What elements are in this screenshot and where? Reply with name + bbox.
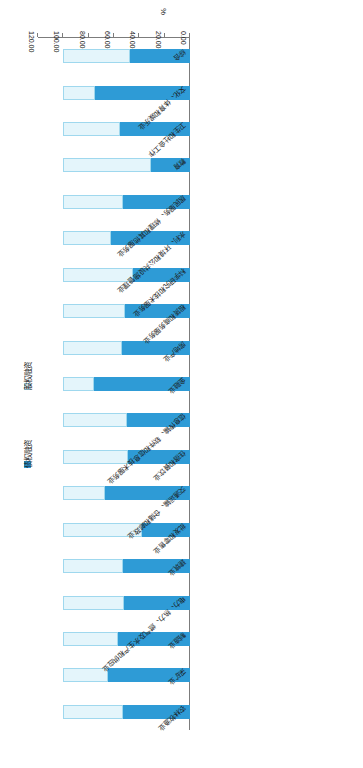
- value-axis-tick: [138, 33, 139, 37]
- stacked-bar-chart: 0.0020.0040.0060.0080.00100.00120.00 % 农…: [0, 0, 363, 768]
- legend-label: 股权融资: [22, 362, 33, 390]
- bar-segment-equity: [63, 195, 123, 209]
- bar-segment-equity: [63, 559, 123, 573]
- bar-segment-equity: [63, 705, 123, 719]
- rotated-figure-wrapper: 0.0020.0040.0060.0080.00100.00120.00 % 农…: [0, 0, 363, 768]
- value-axis-tick-label: 60.00: [104, 31, 111, 49]
- bar-segment-equity: [63, 86, 95, 100]
- legend-label: 债权融资: [22, 440, 33, 468]
- bar-segment-equity: [63, 596, 124, 610]
- value-axis-tick-label: 100.00: [53, 31, 60, 52]
- value-axis-tick-label: 0.00: [180, 31, 187, 45]
- value-axis-tick: [62, 33, 63, 37]
- value-axis-tick: [37, 33, 38, 37]
- bar-segment-equity: [63, 304, 125, 318]
- bar-segment-equity: [63, 268, 133, 282]
- value-axis-unit-label: %: [159, 8, 168, 15]
- bar-segment-equity: [63, 450, 128, 464]
- value-axis-tick: [88, 33, 89, 37]
- bar-segment-equity: [63, 377, 93, 391]
- bar-segment-equity: [63, 413, 126, 427]
- bar-segment-equity: [63, 49, 130, 63]
- value-axis-tick-label: 40.00: [129, 31, 136, 49]
- bar-segment-equity: [63, 341, 121, 355]
- value-axis-tick-label: 80.00: [79, 31, 86, 49]
- bar-segment-equity: [63, 486, 105, 500]
- bar-segment-equity: [63, 632, 117, 646]
- value-axis-tick: [113, 33, 114, 37]
- value-axis-tick: [189, 33, 190, 37]
- value-axis: 0.0020.0040.0060.0080.00100.00120.00: [38, 33, 190, 38]
- bar-segment-equity: [63, 158, 150, 172]
- bar-segment-equity: [63, 122, 120, 136]
- value-axis-tick-label: 120.00: [28, 31, 35, 52]
- value-axis-tick: [164, 33, 165, 37]
- bar-segment-equity: [63, 231, 111, 245]
- value-axis-tick-label: 20.00: [155, 31, 162, 49]
- bar-segment-equity: [63, 668, 107, 682]
